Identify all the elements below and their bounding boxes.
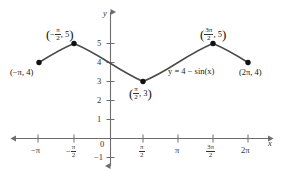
x-tick-denominator: 2	[206, 151, 215, 159]
x-tick-label-pi: π	[175, 146, 179, 155]
point-label-left-endpoint: (−π, 4)	[10, 68, 33, 77]
origin-label: 0	[100, 140, 104, 149]
point-label-right-endpoint: (2π, 4)	[239, 68, 262, 77]
point-label-minimum: (π2, 3)	[129, 86, 152, 101]
paren-close: )	[147, 87, 151, 100]
x-tick-label-neg-pi-over-2: −π2	[66, 144, 76, 159]
graph-figure: 5 4 3 2 1 −1 0 y x −π −π2 π2 π 3π2 2π (−…	[0, 0, 286, 171]
y-tick-label-3: 3	[97, 77, 101, 86]
x-tick-label-2pi: 2π	[241, 146, 250, 155]
x-tick-label-pi-over-2: π2	[139, 144, 145, 159]
point-label-left-maximum: (−π2, 5)	[46, 27, 74, 42]
point-numerator: π	[55, 27, 61, 34]
equation-label: y = 4 − sin(x)	[168, 67, 214, 76]
x-tick-label-3pi-over-2: 3π2	[206, 144, 215, 159]
x-axis	[16, 135, 268, 143]
point-left-endpoint	[36, 60, 41, 65]
point-label-right-maximum: (3π2, 5)	[200, 27, 226, 42]
x-axis-label: x	[268, 139, 272, 148]
paren-open: (	[46, 28, 50, 41]
y-axis-label: y	[103, 9, 107, 18]
y-tick-label-5: 5	[97, 39, 101, 48]
point-numerator: 3π	[204, 27, 213, 34]
x-tick-numerator: π	[139, 144, 145, 151]
y-tick-label-neg1: −1	[94, 153, 103, 162]
function-curve	[39, 44, 248, 82]
x-tick-numerator: 3π	[206, 144, 215, 151]
y-tick-label-2: 2	[97, 96, 101, 105]
point-right-endpoint	[245, 60, 250, 65]
y-axis	[107, 12, 115, 166]
y-tick-label-1: 1	[97, 115, 101, 124]
x-tick-label-neg-pi: −π	[31, 146, 40, 155]
point-minimum	[140, 79, 145, 84]
x-tick-denominator: 2	[139, 151, 145, 159]
point-denominator: 2	[204, 34, 213, 42]
x-tick-numerator: π	[71, 144, 77, 151]
point-denominator: 2	[55, 34, 61, 42]
point-numerator: π	[133, 86, 139, 93]
paren-close: )	[69, 28, 73, 41]
x-tick-denominator: 2	[71, 151, 77, 159]
marked-points	[36, 41, 250, 84]
paren-close: )	[222, 28, 226, 41]
y-tick-label-4: 4	[97, 58, 101, 67]
point-denominator: 2	[133, 93, 139, 101]
